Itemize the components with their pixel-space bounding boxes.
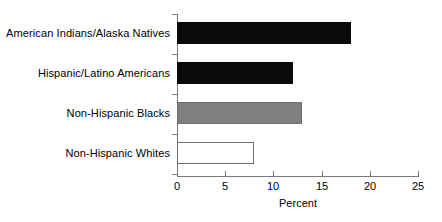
x-axis-tick [418, 171, 419, 176]
x-axis-title: Percent [177, 197, 419, 209]
bar-chart: American Indians/Alaska Natives Hispanic… [0, 0, 442, 222]
bar-non-hispanic-whites [177, 142, 254, 164]
x-axis-tick [273, 171, 274, 176]
category-label-non-hispanic-whites: Non-Hispanic Whites [65, 147, 170, 159]
x-axis-tick-label: 0 [174, 180, 180, 192]
x-axis-tick-label: 5 [222, 180, 228, 192]
category-label-american-indians-alaska-natives: American Indians/Alaska Natives [6, 27, 170, 39]
x-axis-tick-label: 20 [364, 180, 376, 192]
category-label-hispanic-latino-americans: Hispanic/Latino Americans [38, 67, 170, 79]
x-axis-tick-label: 10 [267, 180, 279, 192]
x-axis-tick [177, 171, 178, 176]
plot-area [177, 14, 418, 172]
bar-non-hispanic-blacks [177, 102, 302, 124]
bar-hispanic-latino-americans [177, 62, 293, 84]
category-label-column: American Indians/Alaska Natives Hispanic… [0, 0, 174, 222]
category-label-non-hispanic-blacks: Non-Hispanic Blacks [67, 107, 170, 119]
bar-american-indians-alaska-natives [177, 22, 351, 44]
x-axis-tick [322, 171, 323, 176]
x-axis-tick [370, 171, 371, 176]
x-axis-tick-label: 15 [316, 180, 328, 192]
x-axis-tick [225, 171, 226, 176]
x-axis-tick-label: 25 [412, 180, 424, 192]
x-axis-line [177, 176, 419, 177]
